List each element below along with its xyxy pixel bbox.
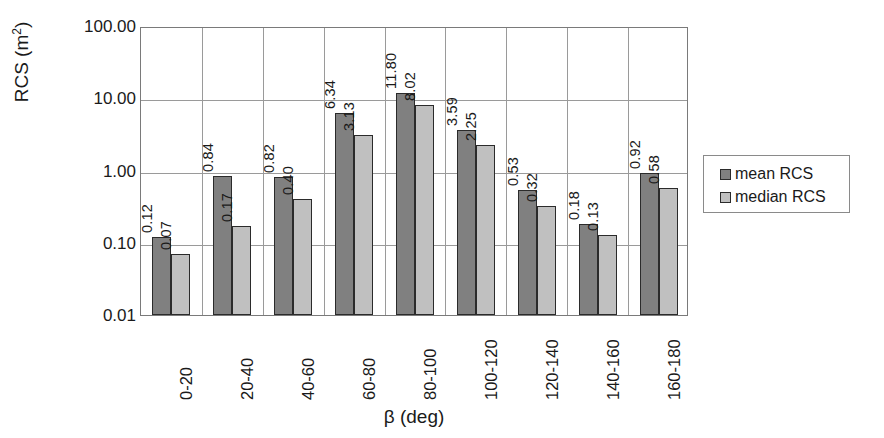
bar-value-label: 0.13 <box>586 202 601 231</box>
x-axis-tick-label: 0-20 <box>178 367 195 400</box>
y-axis-tick-label: 0.01 <box>62 307 136 324</box>
bar-group: 11.808.02 <box>396 28 434 315</box>
bar-median[interactable] <box>659 188 678 315</box>
bar-value-label: 0.07 <box>159 221 174 250</box>
bar-mean[interactable] <box>640 173 659 315</box>
x-axis-tick-label: 120-140 <box>544 339 561 400</box>
category-separator <box>628 28 629 315</box>
x-axis-tick-label: 60-80 <box>361 358 378 400</box>
bar-median[interactable] <box>537 206 556 315</box>
bar-value-label: 2.25 <box>464 112 479 141</box>
bar-group: 3.592.25 <box>457 28 495 315</box>
y-axis-tick-label: 0.10 <box>62 235 136 252</box>
legend-label: median RCS <box>735 188 826 206</box>
x-axis-tick-label: 160-180 <box>666 339 683 400</box>
bar-value-label: 0.84 <box>201 143 216 172</box>
bar-value-label: 3.59 <box>445 97 460 126</box>
x-axis-title: β (deg) <box>140 406 688 428</box>
bar-median[interactable] <box>415 105 434 315</box>
bar-mean[interactable] <box>457 130 476 315</box>
chart-legend: mean RCSmedian RCS <box>703 155 850 213</box>
bar-group: 6.343.13 <box>335 28 373 315</box>
bar-group: 0.120.07 <box>152 28 190 315</box>
bar-value-label: 8.02 <box>403 72 418 101</box>
legend-label: mean RCS <box>735 165 813 183</box>
y-axis-tick-label: 10.00 <box>62 90 136 107</box>
bar-mean[interactable] <box>335 113 354 315</box>
chart-figure: RCS (m2) 100.0010.001.000.100.01 0.120.0… <box>0 0 884 438</box>
legend-item[interactable]: median RCS <box>720 186 849 208</box>
y-axis-title-suffix: ) <box>11 22 32 28</box>
bar-median[interactable] <box>293 199 312 315</box>
bar-value-label: 3.13 <box>342 102 357 131</box>
category-separator <box>567 28 568 315</box>
x-axis-tick-label: 40-60 <box>300 358 317 400</box>
bar-value-label: 0.17 <box>220 193 235 222</box>
bar-group: 0.530.32 <box>518 28 556 315</box>
bar-value-label: 0.82 <box>262 144 277 173</box>
bar-group: 0.920.58 <box>640 28 678 315</box>
y-axis-title: RCS (m2) <box>6 0 28 142</box>
y-axis-tick-label: 100.00 <box>62 18 136 35</box>
bar-median[interactable] <box>171 254 190 315</box>
plot-area: 0.120.070.840.170.820.406.343.1311.808.0… <box>140 27 688 316</box>
category-separator <box>324 28 325 315</box>
bar-value-label: 0.12 <box>140 204 155 233</box>
category-separator <box>445 28 446 315</box>
x-axis-tick-labels: 0-2020-4040-6060-8080-100100-120120-1401… <box>140 316 688 411</box>
bar-value-label: 0.32 <box>525 173 540 202</box>
y-axis-tick-label: 1.00 <box>62 163 136 180</box>
bar-value-label: 0.40 <box>281 166 296 195</box>
bar-value-label: 6.34 <box>323 80 338 109</box>
y-axis-tick-labels: 100.0010.001.000.100.01 <box>58 0 136 438</box>
x-axis-tick-label: 100-120 <box>483 339 500 400</box>
x-axis-tick-label: 20-40 <box>239 358 256 400</box>
x-axis-tick-label: 80-100 <box>422 349 439 400</box>
bar-value-label: 0.53 <box>506 157 521 186</box>
bar-median[interactable] <box>232 226 251 315</box>
legend-item[interactable]: mean RCS <box>720 163 849 185</box>
y-axis-title-exponent: 2 <box>10 28 24 35</box>
x-axis-tick-label: 140-160 <box>605 339 622 400</box>
bar-value-label: 0.58 <box>647 155 662 184</box>
legend-swatch-icon <box>720 169 731 180</box>
bar-mean[interactable] <box>518 190 537 315</box>
bar-value-label: 11.80 <box>384 53 399 89</box>
bar-median[interactable] <box>598 235 617 315</box>
y-axis-title-prefix: RCS (m <box>11 35 32 103</box>
bar-group: 0.820.40 <box>274 28 312 315</box>
bar-value-label: 0.92 <box>628 140 643 169</box>
bar-mean[interactable] <box>274 177 293 315</box>
bar-mean[interactable] <box>396 93 415 315</box>
bar-group: 0.180.13 <box>579 28 617 315</box>
bar-mean[interactable] <box>579 224 598 315</box>
bar-median[interactable] <box>476 145 495 315</box>
bar-group: 0.840.17 <box>213 28 251 315</box>
bar-median[interactable] <box>354 135 373 315</box>
bar-value-label: 0.18 <box>567 191 582 220</box>
legend-swatch-icon <box>720 192 731 203</box>
